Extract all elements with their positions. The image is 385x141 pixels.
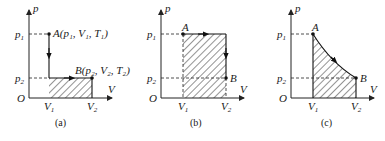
v2-label: V2: [87, 100, 98, 114]
p-axis-label: p: [32, 2, 39, 14]
origin-label: O: [149, 92, 157, 104]
point-a: [47, 32, 51, 36]
origin-label: O: [17, 92, 25, 104]
v1-label: V1: [44, 100, 54, 114]
panel-c: p V O p1 p2 V1 V2 A B (c): [276, 2, 378, 129]
v1-label: V1: [178, 100, 188, 114]
work-area: [49, 78, 92, 98]
p-axis-label: p: [164, 2, 171, 14]
pv-diagrams: p V O p1 p2 V1 V2 A(p₁, V₁, T₁) B(p₂, V₂…: [0, 0, 385, 141]
p2-label: p2: [14, 72, 25, 86]
p2-label: p2: [276, 72, 287, 86]
point-a-label: A: [181, 21, 189, 33]
panel-a: p V O p1 p2 V1 V2 A(p₁, V₁, T₁) B(p₂, V₂…: [14, 2, 130, 129]
point-b: [224, 76, 228, 80]
v2-label: V2: [221, 100, 232, 114]
point-b-label: B: [230, 72, 237, 84]
p-axis-label: p: [294, 2, 301, 14]
point-a-label: A: [311, 21, 319, 33]
point-b-label: B(p₂, V₂, T₂): [75, 64, 130, 77]
origin-label: O: [279, 92, 287, 104]
v1-label: V1: [308, 100, 318, 114]
p2-label: p2: [146, 72, 157, 86]
caption-c: (c): [321, 117, 332, 129]
v2-label: V2: [351, 100, 362, 114]
point-b: [90, 76, 94, 80]
panel-b: p V O p1 p2 V1 V2 A B (b): [146, 2, 248, 129]
p1-label: p1: [146, 28, 156, 42]
caption-b: (b): [190, 117, 202, 129]
p1-label: p1: [276, 28, 286, 42]
v-axis-label: V: [240, 83, 248, 95]
v-axis-label: V: [108, 83, 116, 95]
work-area: [183, 34, 226, 98]
point-b-label: B: [360, 72, 367, 84]
point-b: [354, 76, 358, 80]
v-axis-label: V: [370, 83, 378, 95]
caption-a: (a): [55, 117, 66, 129]
p1-label: p1: [14, 28, 24, 42]
point-a-label: A(p₁, V₁, T₁): [52, 27, 108, 40]
